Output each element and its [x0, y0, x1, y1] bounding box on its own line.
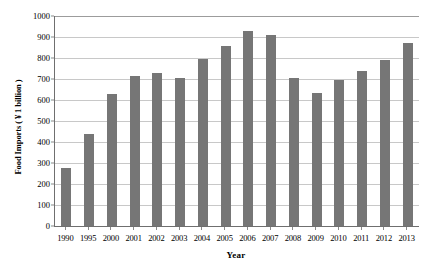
x-axis-tick-slot [145, 227, 168, 231]
x-axis-tick-label: 2012 [373, 232, 396, 246]
bar-slot [351, 16, 374, 226]
x-axis-tick-label: 2004 [191, 232, 214, 246]
x-axis-tick-label: 2010 [327, 232, 350, 246]
x-axis-tick-mark [383, 227, 384, 230]
bars-layer [55, 16, 419, 226]
bar [61, 168, 71, 226]
x-axis-tick-label: 2008 [282, 232, 305, 246]
bar-slot [328, 16, 351, 226]
x-axis-tick-mark [133, 227, 134, 230]
bar-slot [214, 16, 237, 226]
bar [84, 134, 94, 226]
x-axis-tick-slot [282, 227, 305, 231]
x-axis-tick-mark [156, 227, 157, 230]
x-axis-tick-label: 2001 [122, 232, 145, 246]
x-axis-tick-slot [191, 227, 214, 231]
y-axis-tick-label: 400 [37, 137, 50, 147]
y-axis-tick-label: 0 [46, 221, 50, 231]
x-axis-tick-slot [236, 227, 259, 231]
x-axis-tick-mark-group [54, 227, 418, 231]
bar [107, 94, 117, 226]
bar [312, 93, 322, 226]
x-axis-tick-mark [270, 227, 271, 230]
bar [380, 60, 390, 226]
plot-area [54, 16, 419, 227]
bar [289, 78, 299, 226]
x-axis-tick-slot [168, 227, 191, 231]
x-axis-tick-slot [77, 227, 100, 231]
bar-slot [101, 16, 124, 226]
x-axis-tick-slot [373, 227, 396, 231]
x-axis-tick-slot [350, 227, 373, 231]
x-axis-tick-slot [304, 227, 327, 231]
x-axis-tick-label: 2005 [213, 232, 236, 246]
x-axis-tick-label: 2009 [304, 232, 327, 246]
bar-slot [146, 16, 169, 226]
x-axis-tick-mark [65, 227, 66, 230]
bar [334, 80, 344, 226]
bar [266, 35, 276, 226]
x-axis-tick-label: 2007 [259, 232, 282, 246]
x-axis-tick-label: 1990 [54, 232, 77, 246]
x-axis-tick-mark [201, 227, 202, 230]
x-axis-tick-mark [247, 227, 248, 230]
bar-slot [283, 16, 306, 226]
y-axis-tick-label: 800 [37, 53, 50, 63]
x-axis-tick-slot [395, 227, 418, 231]
x-axis-tick-label: 2011 [350, 232, 373, 246]
bar [130, 76, 140, 226]
x-axis-tick-slot [100, 227, 123, 231]
x-axis-tick-mark [88, 227, 89, 230]
bar-slot [123, 16, 146, 226]
x-axis-tick-label: 2000 [100, 232, 123, 246]
bar-slot [237, 16, 260, 226]
x-axis-tick-label-group: 1990199520002001200220032004200520062007… [54, 232, 418, 246]
bar [403, 43, 413, 226]
bar [357, 71, 367, 226]
y-axis-tick-label: 200 [37, 179, 50, 189]
x-axis-tick-label: 2002 [145, 232, 168, 246]
x-axis-tick-slot [259, 227, 282, 231]
x-axis-title: Year [54, 250, 418, 260]
x-axis-tick-label: 1995 [77, 232, 100, 246]
y-axis-tick-label: 500 [37, 116, 50, 126]
bar-slot [78, 16, 101, 226]
bar [221, 46, 231, 226]
y-axis-tick-label: 600 [37, 95, 50, 105]
x-axis-tick-mark [361, 227, 362, 230]
bar [152, 73, 162, 226]
y-axis-tick-label: 900 [37, 32, 50, 42]
x-axis-tick-slot [54, 227, 77, 231]
y-axis-tick-label: 100 [37, 200, 50, 210]
y-axis-tick-label: 700 [37, 74, 50, 84]
y-axis-tick-label: 300 [37, 158, 50, 168]
x-axis-tick-slot [122, 227, 145, 231]
bar-slot [374, 16, 397, 226]
bar-slot [396, 16, 419, 226]
x-axis-tick-slot [213, 227, 236, 231]
x-axis-tick-mark [110, 227, 111, 230]
x-axis-tick-label: 2006 [236, 232, 259, 246]
bar-chart-figure: Food Imports ( ¥ 1 billion ) 01002003004… [0, 0, 428, 274]
bar [175, 78, 185, 226]
y-axis-tick-label: 1000 [33, 11, 50, 21]
x-axis-tick-mark [406, 227, 407, 230]
x-axis-tick-mark [338, 227, 339, 230]
bar-slot [192, 16, 215, 226]
bar-slot [260, 16, 283, 226]
bar [198, 59, 208, 226]
bar-slot [55, 16, 78, 226]
y-axis-tick-label-group: 01002003004005006007008009001000 [24, 11, 54, 231]
x-axis-tick-mark [292, 227, 293, 230]
x-axis-tick-label: 2013 [395, 232, 418, 246]
bar-slot [305, 16, 328, 226]
bar [243, 31, 253, 226]
x-axis-tick-mark [315, 227, 316, 230]
x-axis-tick-slot [327, 227, 350, 231]
bar-slot [169, 16, 192, 226]
x-axis-tick-mark [179, 227, 180, 230]
x-axis-tick-mark [224, 227, 225, 230]
x-axis-tick-label: 2003 [168, 232, 191, 246]
